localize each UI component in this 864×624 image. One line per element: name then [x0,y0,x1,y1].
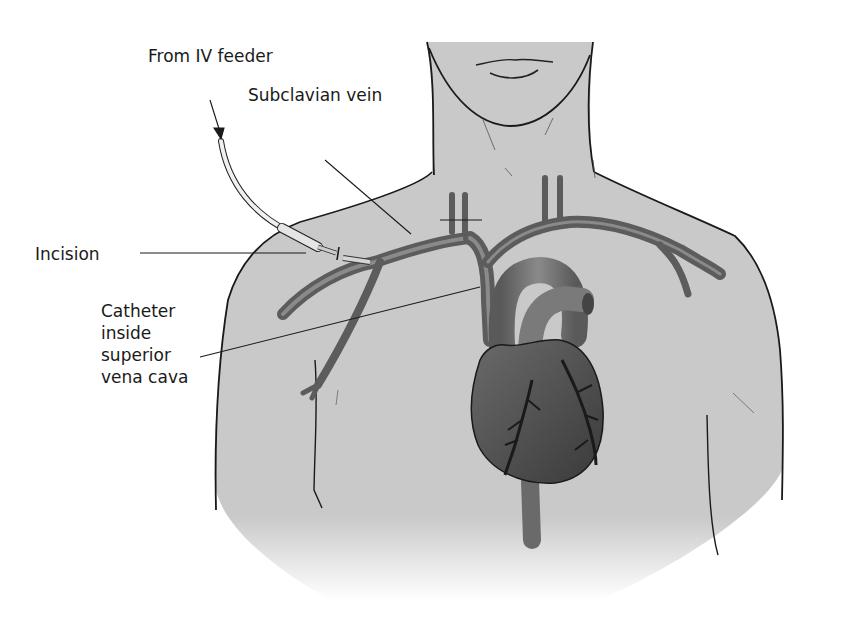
label-iv-feeder: From IV feeder [148,45,273,67]
label-catheter-line1: Catheter [101,300,221,322]
label-catheter-line2: inside [101,322,221,344]
label-catheter-line3: superior [101,344,221,366]
label-subclavian-vein: Subclavian vein [248,84,382,106]
label-incision: Incision [35,243,100,265]
label-catheter-line4: vena cava [101,366,221,388]
heart [471,270,603,483]
label-catheter-svc: Catheter inside superior vena cava [101,300,221,388]
